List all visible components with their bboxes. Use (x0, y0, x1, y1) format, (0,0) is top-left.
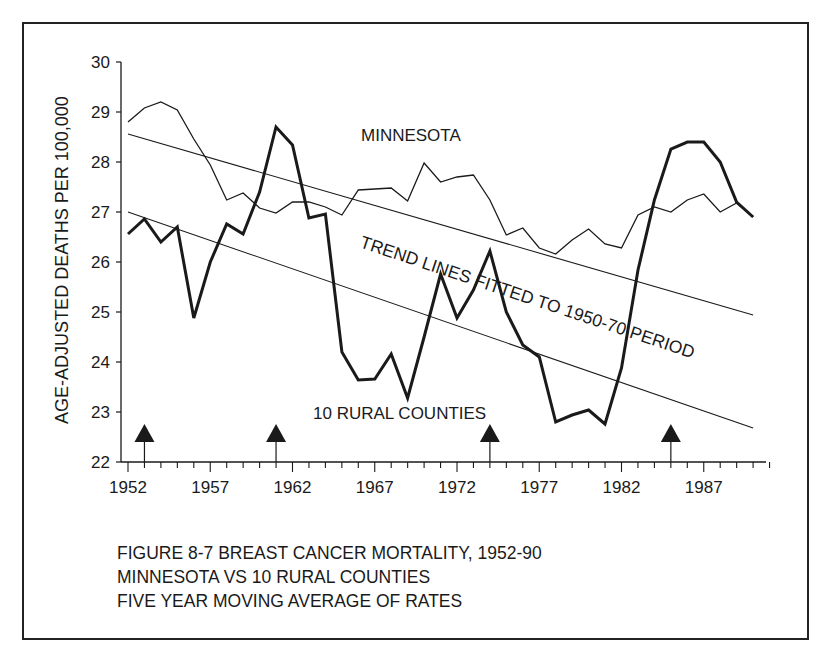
x-tick-label: 1967 (356, 478, 394, 497)
caption-line-comparison: MINNESOTA VS 10 RURAL COUNTIES (117, 565, 542, 589)
y-axis-label: AGE-ADJUSTED DEATHS PER 100,000 (52, 96, 72, 424)
up-arrow-icon (480, 424, 500, 462)
up-arrow-icon (134, 424, 154, 462)
arrow-head (134, 424, 154, 442)
rural-counties-label: 10 RURAL COUNTIES (313, 404, 486, 423)
x-tick-label: 1982 (603, 478, 641, 497)
trend-lines (128, 134, 753, 428)
trend-line (128, 134, 753, 315)
figure-caption: FIGURE 8-7 BREAST CANCER MORTALITY, 1952… (117, 541, 542, 613)
y-tick-label: 22 (91, 453, 110, 472)
y-tick-label: 24 (91, 353, 110, 372)
arrow-head (480, 424, 500, 442)
y-tick-label: 25 (91, 303, 110, 322)
x-tick-label: 1972 (438, 478, 476, 497)
up-arrow-icon (266, 424, 286, 462)
y-tick-label: 26 (91, 253, 110, 272)
y-tick-label: 27 (91, 203, 110, 222)
trend-lines-label: TREND LINES FITTED TO 1950-70 PERIOD (358, 232, 698, 362)
minnesota-label: MINNESOTA (361, 126, 461, 145)
x-tick-label: 1962 (274, 478, 312, 497)
arrow-head (266, 424, 286, 442)
up-arrow-icon (661, 424, 681, 462)
x-tick-label: 1977 (520, 478, 558, 497)
event-arrows (134, 424, 680, 462)
trend-line (128, 212, 753, 428)
x-tick-label: 1987 (685, 478, 723, 497)
y-tick-label: 29 (91, 103, 110, 122)
y-tick-label: 23 (91, 403, 110, 422)
caption-line-method: FIVE YEAR MOVING AVERAGE OF RATES (117, 589, 542, 613)
caption-line-title: FIGURE 8-7 BREAST CANCER MORTALITY, 1952… (117, 541, 542, 565)
x-tick-label: 1957 (191, 478, 229, 497)
minnesota-series (128, 102, 753, 254)
y-tick-label: 30 (91, 53, 110, 72)
x-tick-label: 1952 (109, 478, 147, 497)
y-tick-label: 28 (91, 153, 110, 172)
arrow-head (661, 424, 681, 442)
